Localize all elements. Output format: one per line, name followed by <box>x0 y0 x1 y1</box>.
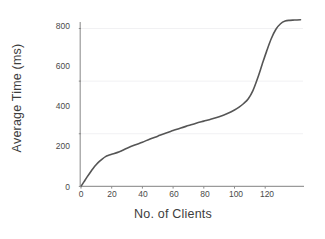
x-tick-label-20: 20 <box>97 190 127 199</box>
y-tick-label-600: 600 <box>36 62 70 71</box>
y-tick-label-200: 200 <box>36 142 70 151</box>
data-line-average-time <box>81 20 301 187</box>
x-tick-label-80: 80 <box>190 190 220 199</box>
y-tick-label-0: 0 <box>36 183 70 192</box>
x-tick-label-100: 100 <box>221 190 251 199</box>
chart-figure: Average Time (ms) No. of Clients 800 600… <box>0 0 325 239</box>
x-tick-label-0: 0 <box>66 190 96 199</box>
plot-area <box>0 0 325 239</box>
x-tick-label-60: 60 <box>159 190 189 199</box>
x-tick-label-120: 120 <box>252 190 282 199</box>
gridlines <box>81 0 303 134</box>
y-tick-label-400: 400 <box>36 102 70 111</box>
x-tick-label-40: 40 <box>128 190 158 199</box>
y-tick-label-800: 800 <box>36 22 70 31</box>
